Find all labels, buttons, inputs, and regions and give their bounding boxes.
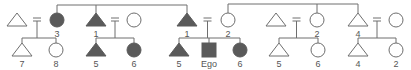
male-triangle-icon [86, 43, 106, 56]
kin-label: Ego [201, 59, 217, 69]
female-circle-icon [127, 13, 141, 27]
female-circle-icon [233, 43, 247, 57]
kin-label: 7 [19, 59, 24, 69]
male-triangle-icon [348, 43, 368, 56]
male-triangle-icon [169, 43, 189, 56]
female-circle-icon [50, 13, 64, 27]
kin-label: 5 [176, 59, 181, 69]
kin-label: 4 [355, 59, 360, 69]
male-triangle-icon [12, 43, 32, 56]
kin-label: 6 [131, 59, 136, 69]
kin-label: 6 [237, 59, 242, 69]
male-triangle-icon [86, 13, 106, 26]
kin-label: 8 [53, 59, 58, 69]
male-triangle-icon [266, 13, 286, 26]
kin-label: 5 [276, 59, 281, 69]
female-circle-icon [310, 13, 324, 27]
male-triangle-icon [7, 13, 27, 26]
ego-square-icon [202, 43, 216, 57]
female-circle-icon [221, 13, 235, 27]
female-circle-icon [49, 43, 63, 57]
female-circle-icon [311, 43, 325, 57]
male-triangle-icon [177, 13, 197, 26]
female-circle-icon [127, 43, 141, 57]
female-circle-icon [389, 43, 403, 57]
kin-label: 5 [93, 59, 98, 69]
male-triangle-icon [348, 13, 368, 26]
kin-label: 6 [315, 59, 320, 69]
male-triangle-icon [269, 43, 289, 56]
female-circle-icon [389, 13, 403, 27]
kinship-diagram: 378156125Ego6256442 [0, 0, 411, 70]
kin-label: 2 [393, 59, 398, 69]
